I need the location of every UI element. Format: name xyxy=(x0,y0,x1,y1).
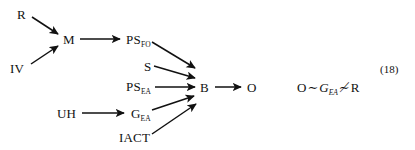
node-s[interactable]: S xyxy=(144,60,151,75)
arrow-layer xyxy=(0,0,415,150)
node-iv[interactable]: IV xyxy=(10,62,24,77)
node-ps-fo-subscript: FO xyxy=(141,40,151,49)
relation-middle-subscript: EA xyxy=(329,88,338,97)
node-g-ea-subscript: EA xyxy=(141,114,151,123)
node-o[interactable]: O xyxy=(247,81,257,96)
arrow-iv-to-m xyxy=(31,46,58,64)
node-ps-ea-subscript: EA xyxy=(141,87,151,96)
node-r[interactable]: R xyxy=(17,8,26,23)
node-ps-ea[interactable]: PSEA xyxy=(126,80,151,95)
node-iv-label: IV xyxy=(10,61,24,76)
node-s-label: S xyxy=(144,59,151,74)
node-b[interactable]: B xyxy=(200,81,209,96)
node-g-ea[interactable]: GEA xyxy=(131,107,151,122)
arrow-r-to-m xyxy=(32,17,58,34)
arrow-s-to-b xyxy=(154,66,195,78)
node-o-label: O xyxy=(247,80,257,95)
node-uh-label: UH xyxy=(57,106,76,121)
node-ps-ea-label: PS xyxy=(126,79,141,94)
arrow-gea-to-b xyxy=(152,96,194,110)
node-m-label: M xyxy=(63,32,75,47)
equation-number: (18) xyxy=(380,64,398,75)
node-ps-fo-label: PS xyxy=(126,32,141,47)
not-similar-operator-icon: ≁ xyxy=(338,80,351,95)
arrow-psfo-to-b xyxy=(152,42,195,68)
relation-expression: O∼GEA≁R xyxy=(297,81,359,96)
relation-middle-term: G xyxy=(319,80,328,95)
node-iact-label: IACT xyxy=(119,130,150,145)
node-g-ea-label: G xyxy=(131,106,141,121)
node-ps-fo[interactable]: PSFO xyxy=(126,33,151,48)
node-b-label: B xyxy=(200,80,209,95)
similar-operator-icon: ∼ xyxy=(306,80,319,95)
relation-left-term: O xyxy=(297,80,306,95)
node-m[interactable]: M xyxy=(63,33,75,48)
relation-right-term: R xyxy=(351,80,360,95)
figure-canvas: R IV M PSFO S PSEA UH GEA IACT B O O∼GEA… xyxy=(0,0,415,150)
node-uh[interactable]: UH xyxy=(57,107,76,122)
node-r-label: R xyxy=(17,7,26,22)
node-iact[interactable]: IACT xyxy=(119,131,150,146)
